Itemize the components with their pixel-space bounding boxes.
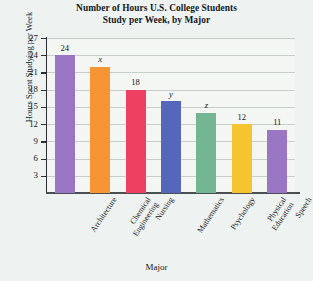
bar-value-label: 11 xyxy=(257,118,297,127)
x-axis-category-label: Psychology xyxy=(230,196,258,232)
bar-value-label: 24 xyxy=(45,44,85,53)
bar xyxy=(55,55,75,193)
x-axis-category-label: Architecture xyxy=(89,196,118,234)
bar-value-label: 18 xyxy=(116,78,156,87)
y-axis-tick-mark xyxy=(41,55,47,56)
y-axis-tick-label: 12 xyxy=(8,120,38,129)
chart-title: Number of Hours U.S. College Students St… xyxy=(0,3,313,26)
y-axis-tick-label: 9 xyxy=(8,137,38,146)
y-axis-line xyxy=(46,37,47,194)
chart-title-line-1: Number of Hours U.S. College Students xyxy=(0,3,313,15)
y-axis-tick-mark xyxy=(41,72,47,73)
y-axis-tick-mark xyxy=(41,38,47,39)
bar-value-label: x xyxy=(80,55,120,64)
y-axis-tick-label: 6 xyxy=(8,154,38,163)
y-axis-tick-label: 27 xyxy=(8,34,38,43)
bar xyxy=(232,124,252,193)
bar xyxy=(267,130,287,193)
x-axis-category-label: Nursing xyxy=(154,196,176,222)
x-axis-category-label: Speech xyxy=(294,196,313,220)
y-axis-tick-label: 3 xyxy=(8,171,38,180)
bar xyxy=(126,90,146,193)
bar xyxy=(90,67,110,193)
y-axis-tick-label: 24 xyxy=(8,51,38,60)
y-axis-tick-mark xyxy=(41,176,47,177)
chart-title-line-2: Study per Week, by Major xyxy=(0,15,313,27)
bar-value-label: z xyxy=(186,101,226,110)
y-axis-tick-label: 21 xyxy=(8,68,38,77)
gridline xyxy=(47,72,295,73)
bar xyxy=(161,101,181,193)
bar-value-label: y xyxy=(151,90,191,99)
bar-chart-figure: Number of Hours U.S. College Students St… xyxy=(0,0,313,281)
y-axis-tick-label: 18 xyxy=(8,85,38,94)
x-axis-category-label-line: Psychology xyxy=(229,195,257,231)
x-axis-category-label-line: Architecture xyxy=(88,195,118,233)
x-axis-title: Major xyxy=(0,262,313,272)
x-axis-category-label-line: Speech xyxy=(294,195,313,219)
bar-value-label: 12 xyxy=(222,113,262,122)
y-axis-tick-mark xyxy=(41,107,47,108)
gridline xyxy=(47,38,295,39)
x-axis-category-label: Mathematics xyxy=(196,196,226,235)
x-axis-category-label-line: Mathematics xyxy=(195,195,226,234)
y-axis-tick-mark xyxy=(41,141,47,142)
y-axis-tick-mark xyxy=(41,124,47,125)
bar xyxy=(196,113,216,193)
y-axis-tick-mark xyxy=(41,90,47,91)
y-axis-tick-label: 15 xyxy=(8,102,38,111)
y-axis-tick-mark xyxy=(41,159,47,160)
x-axis-category-label: PhysicalEducation xyxy=(263,196,295,233)
